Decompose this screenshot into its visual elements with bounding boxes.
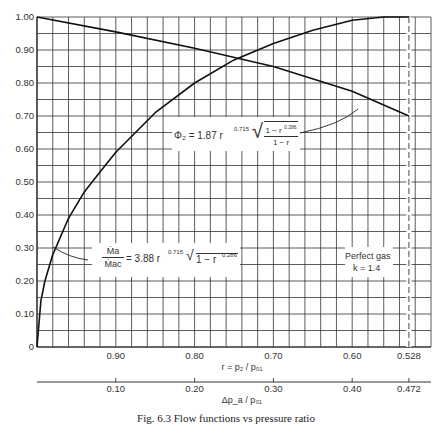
y-tick-label: 0.40 <box>16 209 35 220</box>
fraction-denominator: Ṁac <box>102 258 124 270</box>
secondary-x-tick-label: 0.472 <box>397 383 421 394</box>
gamma-label: k = 1.4 <box>345 262 393 274</box>
x-tick-label: 0.528 <box>397 350 421 361</box>
fraction-numerator: Ṁa <box>102 246 124 258</box>
y-tick-label: 1.00 <box>16 11 35 22</box>
chart: 00.100.200.300.400.500.600.700.800.901.0… <box>0 0 448 427</box>
annotation-phi-formula: Φ₂ = 1.87 r 0.715 √ 1 − r 0.286 1 − r <box>172 117 300 151</box>
secondary-x-tick-label: 0.30 <box>264 383 283 394</box>
leader-line-ma <box>53 247 88 260</box>
x-tick-label: 0.90 <box>107 350 126 361</box>
formula-eq: Φ₂ = 1.87 r <box>174 130 223 141</box>
y-tick-label: 0.80 <box>16 77 35 88</box>
annotation-ma-formula: Ṁa Ṁac = 3.88 r 0.715 √ 1 − r 0.286 <box>92 243 240 277</box>
y-tick-label: 0.10 <box>16 308 35 319</box>
y-tick-label: 0.20 <box>16 275 35 286</box>
y-tick-label: 0.90 <box>16 44 35 55</box>
sqrt-icon: √ <box>252 120 263 143</box>
formula-exp2: 0.286 <box>284 124 297 130</box>
fraction-numerator: 1 − r <box>266 126 282 135</box>
x-tick-label: 0.80 <box>185 350 204 361</box>
x-tick-label: 0.60 <box>343 350 362 361</box>
annotation-perfect-gas: Perfect gas k = 1.4 <box>345 247 393 277</box>
y-tick-label: 0.30 <box>16 242 35 253</box>
formula-exp: 0.715 <box>168 249 183 255</box>
secondary-x-tick-label: 0.20 <box>185 383 204 394</box>
x-axis-label: r = p₂ / p₀₁ <box>221 362 262 372</box>
leader-line-phi <box>300 109 358 133</box>
secondary-x-tick-label: 0.10 <box>107 383 126 394</box>
formula-eq: = 3.88 r <box>126 253 160 264</box>
secondary-x-axis-label: Δp_a / p₀₁ <box>222 395 262 405</box>
y-tick-label: 0 <box>29 341 34 352</box>
y-axis-ticks: 00.100.200.300.400.500.600.700.800.901.0… <box>16 11 35 352</box>
secondary-x-tick-label: 0.40 <box>343 383 362 394</box>
grid <box>37 17 431 347</box>
figure-caption: Fig. 6.3 Flow functions vs pressure rati… <box>137 412 315 424</box>
y-tick-label: 0.50 <box>16 176 35 187</box>
formula-exp: 0.715 <box>234 126 249 132</box>
formula-exp2: 0.286 <box>222 252 237 258</box>
x-axis-ticks: 0.900.800.700.600.528 <box>107 350 421 361</box>
perfect-gas-label: Perfect gas <box>345 250 393 262</box>
y-tick-label: 0.70 <box>16 110 35 121</box>
fraction-denominator: 1 − r <box>264 137 298 148</box>
sqrt-icon: √ <box>186 247 194 263</box>
x-tick-label: 0.70 <box>264 350 283 361</box>
y-tick-label: 0.60 <box>16 143 35 154</box>
secondary-x-axis: 0.100.200.300.400.472 <box>37 378 431 394</box>
